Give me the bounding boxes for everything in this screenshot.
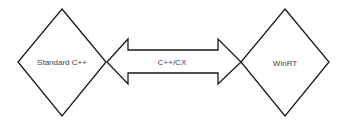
cppcx-label: C++/CX <box>158 58 186 67</box>
winrt-label: WinRT <box>273 59 297 68</box>
standard-cpp-label: Standard C++ <box>37 58 87 67</box>
